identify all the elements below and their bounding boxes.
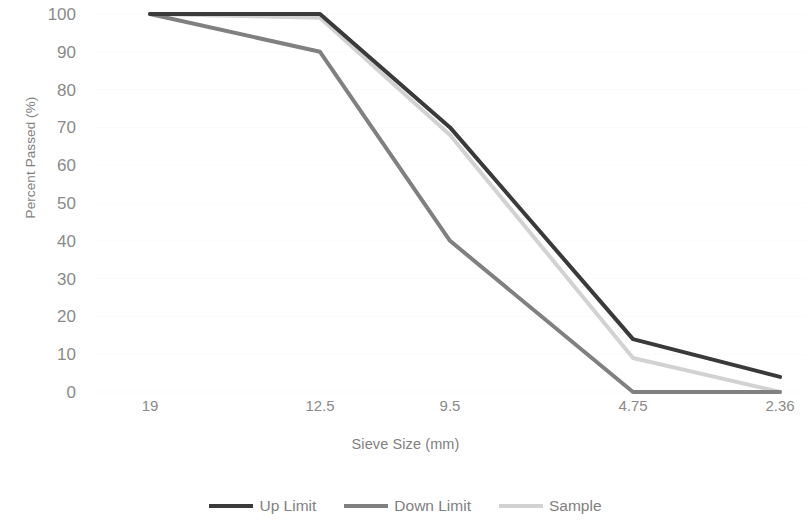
plot-area <box>0 0 811 410</box>
series-line-up-limit <box>150 14 780 377</box>
legend-label: Up Limit <box>259 498 316 514</box>
x-tick-label: 12.5 <box>260 398 380 415</box>
x-axis-tick-labels: 1912.59.54.752.36 <box>0 398 811 424</box>
x-tick-label: 9.5 <box>390 398 510 415</box>
x-tick-label: 2.36 <box>720 398 811 415</box>
legend-line-swatch-icon <box>344 504 388 508</box>
legend-line-swatch-icon <box>209 504 253 508</box>
x-tick-label: 4.75 <box>573 398 693 415</box>
x-axis-title: Sieve Size (mm) <box>0 436 811 452</box>
legend-item[interactable]: Down Limit <box>344 498 471 514</box>
legend-label: Down Limit <box>394 498 471 514</box>
legend-item[interactable]: Up Limit <box>209 498 316 514</box>
chart-legend: Up LimitDown LimitSample <box>0 489 811 523</box>
legend-line-swatch-icon <box>499 504 543 508</box>
sieve-gradation-chart: Percent Passed (%) 100908070605040302010… <box>0 0 811 524</box>
x-tick-label: 19 <box>90 398 210 415</box>
legend-item[interactable]: Sample <box>499 498 602 514</box>
legend-label: Sample <box>549 498 602 514</box>
